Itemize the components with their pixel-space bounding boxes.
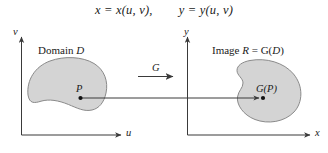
coordinate-transformation-figure: x = x(u, v),y = y(u, v) <box>0 0 328 153</box>
domain-label-script-d: D <box>76 44 84 56</box>
figure-canvas <box>0 0 328 153</box>
image-label-prefix: Image <box>212 44 242 56</box>
point-p-marker <box>78 96 82 100</box>
u-axis-label: u <box>126 128 131 139</box>
image-label-script-r: R <box>242 44 249 56</box>
point-p-label: P <box>76 84 82 95</box>
v-axis-label: v <box>13 27 18 38</box>
domain-region-shape <box>28 58 107 111</box>
domain-label-prefix: Domain <box>38 44 76 56</box>
x-axis-label: x <box>315 128 320 139</box>
point-gp-label: G(P) <box>256 84 277 95</box>
mapping-arrow-label: G <box>152 63 160 74</box>
image-label-middle: = G( <box>249 44 272 56</box>
image-label-suffix: ) <box>280 44 284 56</box>
point-gp-marker <box>261 96 265 100</box>
domain-region-label: Domain D <box>38 45 84 56</box>
image-region-label: Image R = G(D) <box>212 45 284 56</box>
y-axis-label: y <box>184 27 189 38</box>
